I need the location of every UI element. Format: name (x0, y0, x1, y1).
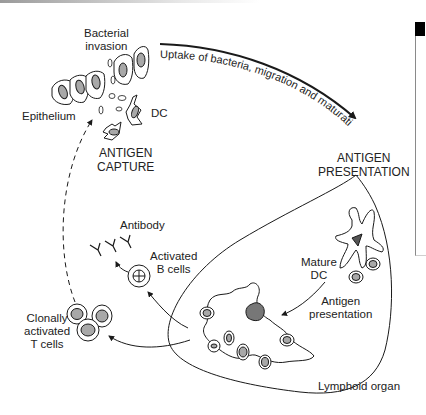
label-line: T cells (24, 338, 70, 351)
label-antigen-presentation: Antigen presentation (309, 295, 372, 321)
label-line: Bacterial (84, 27, 129, 40)
label-clonally-activated-t-cells: Clonally activated T cells (24, 312, 70, 351)
label-bacterial-invasion: Bacterial invasion (84, 27, 129, 53)
label-line: Clonally (24, 312, 70, 325)
antibodies (90, 235, 131, 256)
organ-to-t-cells-arrow (109, 336, 190, 347)
label-antibody: Antibody (120, 219, 165, 232)
label-line: Antigen (309, 295, 372, 308)
label-mature-dc: Mature DC (301, 256, 337, 282)
label-line: CAPTURE (97, 160, 154, 174)
b-cell-to-antibody-arrow (116, 262, 128, 272)
label-activated-b-cells: Activated B cells (150, 250, 197, 276)
label-line: invasion (84, 40, 129, 53)
label-line: presentation (309, 308, 372, 321)
activated-b-cell (128, 265, 150, 287)
label-line: ANTIGEN (318, 151, 410, 165)
label-line: Mature (301, 256, 337, 269)
label-antigen-capture: ANTIGEN CAPTURE (97, 146, 154, 174)
immature-dc (103, 95, 142, 140)
dashed-return-arrow (63, 120, 92, 302)
dc-t-cell-cluster (200, 283, 314, 369)
label-dc: DC (151, 107, 168, 120)
label-antigen-presentation-title: ANTIGEN PRESENTATION (318, 151, 410, 179)
label-lymphoid-organ: Lymphoid organ (318, 380, 400, 393)
label-epithelium: Epithelium (22, 110, 76, 123)
label-line: ANTIGEN (97, 146, 154, 160)
mature-dc-in-organ (336, 208, 384, 283)
label-line: activated (24, 325, 70, 338)
label-line: PRESENTATION (318, 165, 410, 179)
clonally-activated-t-cells (67, 304, 112, 341)
label-line: DC (301, 269, 337, 282)
uptake-arrow (160, 44, 355, 118)
organ-to-b-cells-arrow (148, 292, 188, 328)
label-line: Activated (150, 250, 197, 263)
label-line: B cells (150, 263, 197, 276)
